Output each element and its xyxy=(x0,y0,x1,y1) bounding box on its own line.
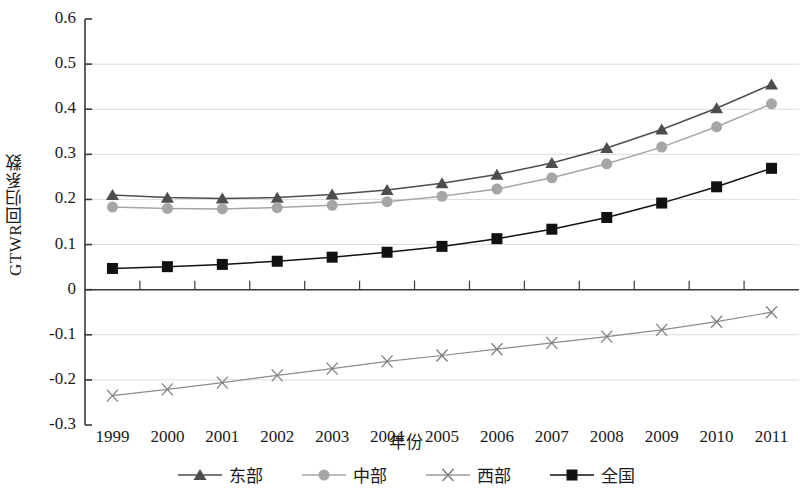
data-point-marker-西部 xyxy=(766,306,777,318)
data-point-marker-中部 xyxy=(656,142,667,153)
data-point-marker-中部 xyxy=(272,202,283,213)
legend-item-east: 东部 xyxy=(177,462,263,487)
x-axis-tick-label: 2004 xyxy=(357,427,417,447)
data-point-marker-中部 xyxy=(327,200,338,211)
x-axis-tick-label: 2006 xyxy=(467,427,527,447)
data-point-marker-中部 xyxy=(766,98,777,109)
data-point-marker-中部 xyxy=(711,121,722,132)
data-point-marker-中部 xyxy=(601,158,612,169)
data-point-marker-全国 xyxy=(656,198,667,209)
data-point-marker-中部 xyxy=(437,191,448,202)
data-point-marker-中部 xyxy=(382,196,393,207)
data-point-marker-东部 xyxy=(655,124,668,135)
triangle-marker-icon xyxy=(177,467,223,483)
data-point-marker-中部 xyxy=(491,184,502,195)
data-point-marker-全国 xyxy=(162,261,173,272)
legend-label-east: 东部 xyxy=(229,462,263,487)
plot-area xyxy=(0,0,811,495)
data-point-marker-中部 xyxy=(546,172,557,183)
data-point-marker-东部 xyxy=(710,102,723,113)
x-axis-tick-label: 2008 xyxy=(577,427,637,447)
legend-label-national: 全国 xyxy=(601,462,635,487)
y-axis-tick-label: -0.1 xyxy=(14,324,76,344)
x-axis-tick-label: 2003 xyxy=(302,427,362,447)
series-line-西部 xyxy=(113,312,772,396)
y-axis-tick-label: 0.1 xyxy=(14,234,76,254)
legend-item-west: 西部 xyxy=(425,462,511,487)
x-axis-tick-label: 2005 xyxy=(412,427,472,447)
gtwr-coefficient-line-chart: GTWR回归系数 年份 东部 中部 西部 xyxy=(0,0,811,495)
data-point-marker-全国 xyxy=(601,212,612,223)
x-axis-tick-label: 2010 xyxy=(687,427,747,447)
legend-label-central: 中部 xyxy=(353,462,387,487)
data-point-marker-全国 xyxy=(217,259,228,270)
data-point-marker-全国 xyxy=(491,233,502,244)
y-axis-tick-label: -0.3 xyxy=(14,414,76,434)
data-point-marker-中部 xyxy=(107,202,118,213)
data-point-marker-全国 xyxy=(327,252,338,263)
x-axis-tick-label: 2000 xyxy=(137,427,197,447)
x-axis-tick-label: 2001 xyxy=(192,427,252,447)
cross-marker-icon xyxy=(425,467,471,483)
data-point-marker-东部 xyxy=(765,78,778,89)
data-point-marker-东部 xyxy=(600,142,613,153)
x-axis-tick-label: 2009 xyxy=(632,427,692,447)
x-axis-tick-label: 2007 xyxy=(522,427,582,447)
data-point-marker-全国 xyxy=(107,263,118,274)
y-axis-tick-label: 0 xyxy=(14,279,76,299)
data-point-marker-全国 xyxy=(437,241,448,252)
x-axis-tick-label: 1999 xyxy=(82,427,142,447)
legend-item-central: 中部 xyxy=(301,462,387,487)
chart-legend: 东部 中部 西部 全国 xyxy=(0,462,811,487)
y-axis-tick-label: 0.5 xyxy=(14,53,76,73)
data-point-marker-全国 xyxy=(382,247,393,258)
data-point-marker-全国 xyxy=(272,256,283,267)
x-axis-tick-label: 2002 xyxy=(247,427,307,447)
data-point-marker-中部 xyxy=(162,203,173,214)
data-point-marker-全国 xyxy=(711,181,722,192)
data-point-marker-全国 xyxy=(766,163,777,174)
y-axis-tick-label: 0.2 xyxy=(14,188,76,208)
data-point-marker-全国 xyxy=(546,224,557,235)
legend-label-west: 西部 xyxy=(477,462,511,487)
y-axis-tick-label: 0.4 xyxy=(14,98,76,118)
legend-item-national: 全国 xyxy=(549,462,635,487)
circle-marker-icon xyxy=(301,467,347,483)
square-marker-icon xyxy=(549,467,595,483)
y-axis-tick-label: 0.3 xyxy=(14,143,76,163)
data-point-marker-中部 xyxy=(217,203,228,214)
y-axis-tick-label: -0.2 xyxy=(14,369,76,389)
x-axis-tick-label: 2011 xyxy=(742,427,802,447)
y-axis-tick-label: 0.6 xyxy=(14,8,76,28)
